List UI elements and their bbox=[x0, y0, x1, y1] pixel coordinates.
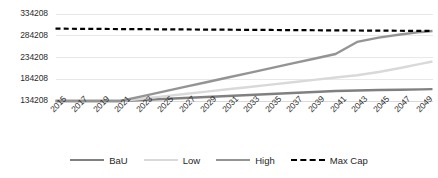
legend-swatch bbox=[216, 159, 250, 161]
legend-label: BaU bbox=[109, 155, 127, 166]
legend-swatch bbox=[291, 159, 325, 161]
chart-legend: BaULowHighMax Cap bbox=[0, 150, 438, 170]
legend-swatch bbox=[144, 159, 178, 161]
legend-item-low[interactable]: Low bbox=[144, 155, 200, 166]
legend-label: Max Cap bbox=[330, 155, 368, 166]
legend-swatch bbox=[70, 159, 104, 161]
legend-item-high[interactable]: High bbox=[216, 155, 275, 166]
series-line-bau bbox=[56, 89, 433, 101]
legend-item-bau[interactable]: BaU bbox=[70, 155, 127, 166]
legend-label: High bbox=[255, 155, 275, 166]
legend-item-max-cap[interactable]: Max Cap bbox=[291, 155, 368, 166]
legend-label: Low bbox=[183, 155, 200, 166]
line-chart: 134208184208234208284208334208 201520172… bbox=[0, 0, 438, 178]
series-line-max-cap bbox=[56, 29, 433, 31]
